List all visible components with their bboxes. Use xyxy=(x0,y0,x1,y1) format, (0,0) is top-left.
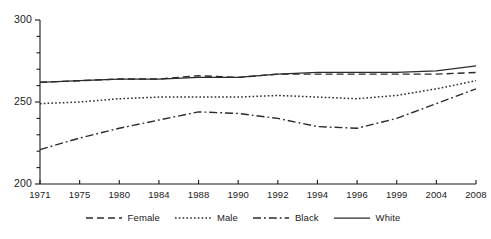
series-line-black xyxy=(40,89,476,150)
axis-layer xyxy=(35,20,476,184)
legend-swatch-male xyxy=(174,213,212,223)
legend-swatch-white xyxy=(333,213,371,223)
legend-label: Female xyxy=(128,212,160,223)
chart-legend: FemaleMaleBlackWhite xyxy=(0,212,485,223)
x-tick-label-1994: 1994 xyxy=(297,189,337,200)
y-tick-label-300: 300 xyxy=(2,13,32,25)
x-tick-label-1980: 1980 xyxy=(99,189,139,200)
series-layer xyxy=(40,66,476,150)
x-tick-label-2004: 2004 xyxy=(416,189,456,200)
legend-label: White xyxy=(376,212,401,223)
legend-label: Male xyxy=(217,212,238,223)
legend-swatch-female xyxy=(85,213,123,223)
legend-label: Black xyxy=(295,212,319,223)
series-line-male xyxy=(40,81,476,104)
legend-item-male: Male xyxy=(174,212,238,223)
x-tick-label-1988: 1988 xyxy=(179,189,219,200)
series-line-white xyxy=(40,66,476,82)
x-tick-label-1984: 1984 xyxy=(139,189,179,200)
legend-swatch-black xyxy=(252,213,290,223)
y-tick-label-250: 250 xyxy=(2,95,32,107)
legend-item-black: Black xyxy=(252,212,319,223)
y-tick-label-200: 200 xyxy=(2,177,32,189)
x-tick-label-2008: 2008 xyxy=(456,189,491,200)
series-line-female xyxy=(40,72,476,82)
x-tick-label-1992: 1992 xyxy=(258,189,298,200)
x-tick-label-1975: 1975 xyxy=(60,189,100,200)
legend-item-female: Female xyxy=(85,212,160,223)
x-tick-label-1990: 1990 xyxy=(218,189,258,200)
x-tick-label-1971: 1971 xyxy=(20,189,60,200)
legend-item-white: White xyxy=(333,212,401,223)
x-tick-label-1999: 1999 xyxy=(377,189,417,200)
x-tick-label-1996: 1996 xyxy=(337,189,377,200)
